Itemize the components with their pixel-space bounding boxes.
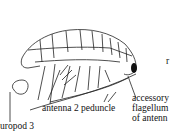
label-uropod-3: uropod 3 [0, 121, 34, 131]
label-accessory-line1: accessory [132, 93, 169, 103]
eye [131, 63, 137, 73]
label-accessory-line3: of antenn [132, 113, 168, 123]
label-edge-letter: r [166, 56, 169, 66]
amphipod-diagram: accessory flagellum of antenn antenna 2 … [0, 0, 171, 135]
label-accessory-line2: flagellum [132, 103, 168, 113]
label-antenna2-peduncle: antenna 2 peduncle [42, 103, 115, 113]
